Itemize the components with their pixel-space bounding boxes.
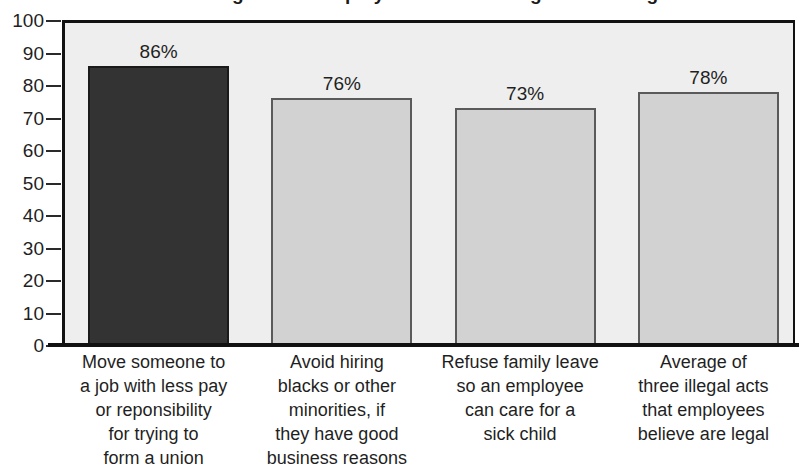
x-axis-category-line: minorities, if <box>237 398 436 422</box>
y-axis-tick-mark <box>46 53 61 55</box>
y-axis-tick-mark <box>46 150 61 152</box>
bar-chart: What managers and employees believe is l… <box>0 0 804 471</box>
x-axis-category-line: a job with less pay <box>54 374 253 398</box>
x-axis-category-line: three illegal acts <box>604 374 803 398</box>
x-axis-category-line: Average of <box>604 350 803 374</box>
y-axis-tick-label: 60 <box>0 141 44 160</box>
x-axis-category-line: believe are legal <box>604 422 803 446</box>
y-axis-tick-label: 100 <box>0 11 44 30</box>
x-axis-category-label: Move someone toa job with less payor rep… <box>54 350 253 470</box>
chart-title: What managers and employees believe is l… <box>0 0 804 5</box>
bar-value-label: 76% <box>271 74 412 93</box>
x-axis-category-line: so an employee <box>421 374 620 398</box>
x-axis-category-line: business reasons <box>237 446 436 470</box>
y-axis-tick-mark <box>46 215 61 217</box>
y-axis-tick-label: 70 <box>0 108 44 127</box>
bar <box>271 98 412 345</box>
y-axis-tick-mark <box>46 20 61 22</box>
x-axis-category-line: blacks or other <box>237 374 436 398</box>
y-axis-tick-mark <box>46 248 61 250</box>
y-axis-tick-mark <box>46 313 61 315</box>
x-axis-category-line: Move someone to <box>54 350 253 374</box>
bar <box>638 92 779 346</box>
plot-area: 86%76%73%78% <box>62 20 795 345</box>
y-axis-tick-label: 40 <box>0 206 44 225</box>
y-axis-tick-mark <box>46 118 61 120</box>
y-axis-tick-label: 50 <box>0 173 44 192</box>
x-axis-category-line: Refuse family leave <box>421 350 620 374</box>
x-axis-category-label: Refuse family leaveso an employeecan car… <box>421 350 620 446</box>
x-axis-category-line: sick child <box>421 422 620 446</box>
x-axis-category-labels: Move someone toa job with less payor rep… <box>62 350 804 471</box>
y-axis-tick-label: 10 <box>0 303 44 322</box>
x-axis-category-line: Avoid hiring <box>237 350 436 374</box>
y-axis-tick-label: 80 <box>0 76 44 95</box>
bar <box>455 108 596 345</box>
x-axis-category-label: Average ofthree illegal actsthat employe… <box>604 350 803 446</box>
y-axis-tick-label: 20 <box>0 271 44 290</box>
y-axis-tick-mark <box>46 85 61 87</box>
x-axis-category-label: Avoid hiringblacks or otherminorities, i… <box>237 350 436 470</box>
y-axis-tick-mark <box>46 280 61 282</box>
bar-value-label: 73% <box>455 84 596 103</box>
x-axis-line <box>48 343 799 347</box>
y-axis-tick-marks <box>46 14 62 346</box>
y-axis-tick-label: 90 <box>0 43 44 62</box>
y-axis-tick-label: 0 <box>0 336 44 355</box>
x-axis-category-line: form a union <box>54 446 253 470</box>
x-axis-category-line: can care for a <box>421 398 620 422</box>
x-axis-category-line: that employees <box>604 398 803 422</box>
x-axis-category-line: they have good <box>237 422 436 446</box>
bar-value-label: 86% <box>88 42 229 61</box>
y-axis-tick-mark <box>46 183 61 185</box>
y-axis-labels: 1009080706050403020100 <box>0 14 44 346</box>
y-axis-tick-label: 30 <box>0 238 44 257</box>
x-axis-category-line: for trying to <box>54 422 253 446</box>
x-axis-category-line: or reponsibility <box>54 398 253 422</box>
bar-value-label: 78% <box>638 68 779 87</box>
bar <box>88 66 229 346</box>
